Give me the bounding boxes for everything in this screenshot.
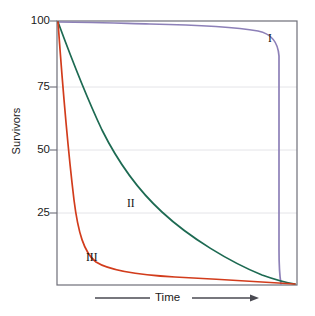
curve-label-iii: III — [86, 252, 98, 264]
curve-type-ii — [58, 22, 295, 284]
curve-type-i — [58, 22, 281, 284]
survivorship-curves-figure: Survivors 100 75 50 25 — [0, 0, 315, 316]
curve-type-iii — [58, 22, 295, 284]
y-axis-tick-marks — [50, 21, 57, 213]
plot-canvas — [0, 0, 315, 316]
plot-frame — [57, 21, 297, 285]
gridlines — [57, 87, 297, 213]
x-axis-title: Time — [155, 292, 180, 304]
arrow-head-icon — [250, 294, 259, 301]
curve-label-ii: II — [127, 198, 135, 210]
curve-label-i: I — [268, 33, 272, 45]
